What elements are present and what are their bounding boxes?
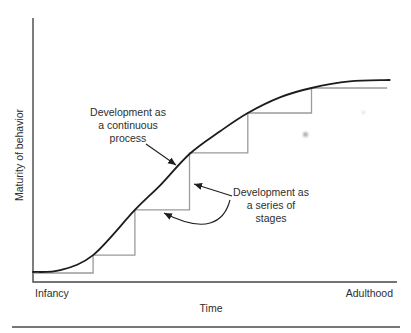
annotation-line: stages — [233, 212, 309, 225]
development-chart-figure: Maturity of behavior Development as a co… — [0, 0, 411, 333]
x-axis-title: Time — [200, 302, 223, 314]
chart-canvas — [0, 0, 411, 333]
x-tick-adulthood: Adulthood — [346, 287, 393, 299]
continuous-pointer-arrow — [146, 144, 176, 165]
annotation-line: Development as — [90, 106, 166, 119]
annotation-series-of-stages: Development as a series of stages — [233, 186, 309, 225]
continuous-curve-line — [33, 80, 390, 272]
annotation-line: Development as — [233, 186, 309, 199]
annotation-line: a continuous — [90, 119, 166, 132]
stages-pointer-arrow-curved — [164, 200, 230, 224]
x-tick-infancy: Infancy — [35, 287, 69, 299]
annotation-line: process — [90, 132, 166, 145]
annotation-line: a series of — [233, 199, 309, 212]
y-axis-title: Maturity of behavior — [13, 109, 25, 201]
stages-pointer-arrow-straight — [194, 184, 232, 196]
scan-smudge — [303, 132, 308, 137]
annotation-continuous-process: Development as a continuous process — [90, 106, 166, 145]
stages-steps-line — [33, 88, 387, 273]
axes — [33, 18, 397, 282]
scan-smudge — [362, 111, 365, 114]
